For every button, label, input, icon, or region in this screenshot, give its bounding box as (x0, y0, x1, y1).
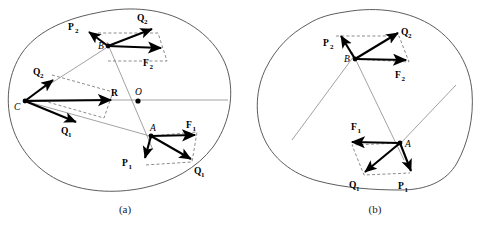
point-A-dot-a (149, 134, 154, 139)
label-vector-P2-b: P 2 (323, 38, 334, 51)
label-point-O-a: O (135, 87, 142, 97)
vector-R-a (25, 100, 111, 101)
vector-Q1c-a (25, 101, 76, 122)
vector-Q2c-a (25, 80, 53, 101)
panel-b: B A P 2 Q 2 F 2 F 1 Q 1 (257, 10, 472, 194)
svg-text:2: 2 (150, 63, 154, 71)
body-outline-b (257, 10, 472, 190)
label-vector-Q1-b: Q 1 (349, 180, 360, 193)
vector-F2-b (355, 59, 406, 60)
point-B-dot-a (106, 44, 111, 49)
label-vector-P1-b: P 1 (398, 181, 409, 194)
svg-text:F: F (186, 120, 192, 130)
label-vector-F2-b: F 2 (395, 70, 406, 83)
vector-F1-a (151, 135, 195, 136)
svg-text:2: 2 (408, 32, 412, 40)
svg-text:1: 1 (68, 131, 72, 139)
label-vector-Q2-b: Q 2 (401, 27, 412, 40)
label-vector-P2-a: P 2 (68, 22, 79, 35)
label-vector-R-a: R (111, 88, 118, 98)
label-point-B-a: B (98, 41, 104, 51)
label-vector-F1-a: F 1 (186, 120, 197, 133)
svg-text:2: 2 (75, 27, 79, 35)
svg-text:2: 2 (40, 72, 44, 80)
mechanics-figure: B C O A P 2 Q 2 F 2 Q 2 R Q (0, 0, 484, 225)
caption-a: (a) (105, 203, 145, 215)
vector-Q2-a (108, 29, 152, 46)
svg-text:1: 1 (356, 185, 360, 193)
svg-text:1: 1 (193, 125, 197, 133)
label-vector-Q1-a: Q 1 (194, 166, 205, 179)
point-A-dot-b (398, 141, 403, 146)
label-vector-P1-a: P 1 (122, 158, 133, 171)
label-point-B-b: B (344, 54, 350, 64)
svg-text:P: P (323, 38, 329, 48)
vector-P1-a (145, 136, 151, 158)
svg-text:2: 2 (330, 43, 334, 51)
label-vector-Q2-a: Q 2 (137, 13, 148, 26)
label-point-C-a: C (14, 102, 21, 112)
svg-text:1: 1 (358, 127, 362, 135)
line-C-A-a (25, 101, 150, 136)
vector-Q1-b (365, 143, 400, 172)
vector-F2-a (108, 46, 161, 48)
vector-Q2-b (355, 33, 398, 59)
svg-text:F: F (395, 70, 401, 80)
line-lower-right-b (398, 85, 456, 146)
point-B-dot-b (353, 57, 358, 62)
label-vector-Q1c-a: Q 1 (61, 126, 72, 139)
svg-text:2: 2 (402, 75, 406, 83)
figure-container: B C O A P 2 Q 2 F 2 Q 2 R Q (0, 0, 484, 225)
svg-text:F: F (143, 58, 149, 68)
label-point-A-a: A (149, 123, 156, 133)
line-upper-left-b (292, 56, 354, 140)
svg-text:1: 1 (129, 163, 133, 171)
svg-text:P: P (68, 22, 74, 32)
svg-text:P: P (398, 181, 404, 191)
label-vector-F1-b: F 1 (351, 122, 362, 135)
svg-text:1: 1 (405, 186, 409, 194)
vector-Q1-a (151, 136, 191, 159)
svg-text:2: 2 (144, 18, 148, 26)
label-vector-Q2c-a: Q 2 (33, 67, 44, 80)
svg-text:1: 1 (201, 171, 205, 179)
label-point-A-b: A (404, 139, 411, 149)
svg-text:F: F (351, 122, 357, 132)
vector-F1-b (352, 142, 400, 143)
point-O-dot-a (135, 98, 140, 103)
svg-text:P: P (122, 158, 128, 168)
panel-a: B C O A P 2 Q 2 F 2 Q 2 R Q (8, 9, 230, 191)
label-vector-F2-a: F 2 (143, 58, 154, 71)
point-C-dot-a (23, 99, 28, 104)
caption-b: (b) (355, 203, 395, 215)
